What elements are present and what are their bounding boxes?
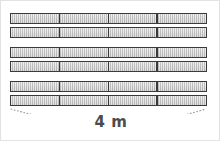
segment-divider [108, 47, 110, 58]
segment-divider [59, 95, 61, 106]
segment-divider [108, 95, 110, 106]
board-row-2 [10, 27, 207, 38]
segment-divider [156, 81, 158, 92]
segment-divider [59, 81, 61, 92]
decking-diagram: 4 m [0, 0, 220, 141]
board-row-4 [10, 61, 207, 72]
dimension-label: 4 m [1, 114, 220, 131]
segment-divider [156, 27, 158, 38]
segment-divider [108, 61, 110, 72]
board-group-2 [10, 47, 207, 72]
board-group-1 [10, 13, 207, 38]
board-row-3 [10, 47, 207, 58]
segment-divider [156, 47, 158, 58]
segment-divider [108, 13, 110, 24]
segment-divider [156, 95, 158, 106]
board-group-3 [10, 81, 207, 106]
board-row-6 [10, 95, 207, 106]
segment-divider [108, 81, 110, 92]
segment-divider [156, 61, 158, 72]
segment-divider [59, 27, 61, 38]
dimension-label-text: 4 m [89, 114, 132, 131]
segment-divider [59, 47, 61, 58]
segment-divider [108, 27, 110, 38]
segment-divider [59, 13, 61, 24]
board-row-1 [10, 13, 207, 24]
segment-divider [156, 13, 158, 24]
segment-divider [59, 61, 61, 72]
board-row-5 [10, 81, 207, 92]
